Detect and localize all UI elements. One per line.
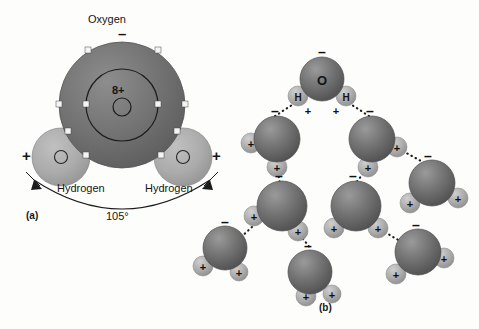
hydrogen-positive-sign: + <box>394 142 400 154</box>
panel-b-diagram: OHH–++–++–++–++–++–++–++–++–++ <box>0 0 479 329</box>
oxygen-negative-sign: – <box>318 44 326 60</box>
molecule-bottom-right: –++ <box>386 217 454 284</box>
molecule-upper-right: –++ <box>349 103 407 177</box>
oxygen-negative-sign: – <box>366 103 374 119</box>
hydrogen-positive-sign: + <box>251 211 257 223</box>
oxygen-negative-sign: – <box>412 217 420 233</box>
oxygen-negative-sign: – <box>304 238 312 254</box>
oxygen-sphere <box>254 116 300 162</box>
hydrogen-letter: H <box>294 92 301 103</box>
oxygen-negative-sign: – <box>424 148 432 164</box>
oxygen-sphere <box>203 226 247 270</box>
oxygen-sphere <box>409 160 455 206</box>
hydrogen-positive-sign: + <box>455 193 461 205</box>
hydrogen-positive-sign: + <box>333 105 339 117</box>
hydrogen-positive-sign: + <box>200 261 206 273</box>
oxygen-sphere <box>395 229 441 275</box>
oxygen-negative-sign: – <box>271 103 279 119</box>
hydrogen-positive-sign: + <box>407 198 413 210</box>
panel-b-tag: (b) <box>319 302 332 313</box>
oxygen-negative-sign: – <box>349 168 357 184</box>
molecule-mid-center: –++ <box>324 168 388 238</box>
oxygen-sphere <box>257 181 307 231</box>
molecule-mid-left: –++ <box>244 168 308 241</box>
molecule-far-right: –++ <box>400 148 468 213</box>
hydrogen-positive-sign: + <box>236 267 242 279</box>
hydrogen-positive-sign: + <box>441 253 447 265</box>
oxygen-negative-sign: – <box>221 214 229 230</box>
molecule-bottom-center: –++ <box>288 238 341 306</box>
oxygen-letter: O <box>317 73 327 88</box>
hydrogen-positive-sign: + <box>295 226 301 238</box>
oxygen-sphere <box>288 250 332 294</box>
hydrogen-letter: H <box>342 92 349 103</box>
hydrogen-positive-sign: + <box>331 223 337 235</box>
oxygen-negative-sign: – <box>275 168 283 184</box>
water-molecule-figure: Oxygen – 8+ + + Hydrogen Hydrogen 105° (… <box>0 0 479 329</box>
hydrogen-positive-sign: + <box>393 269 399 281</box>
molecule-top: OHH–++ <box>288 44 356 117</box>
hydrogen-positive-sign: + <box>303 291 309 303</box>
oxygen-sphere <box>331 181 381 231</box>
hydrogen-positive-sign: + <box>375 223 381 235</box>
molecule-upper-left: –++ <box>241 103 300 177</box>
molecule-bottom-left: –++ <box>193 214 248 281</box>
hydrogen-positive-sign: + <box>365 162 371 174</box>
oxygen-sphere <box>349 116 395 162</box>
hydrogen-positive-sign: + <box>329 289 335 301</box>
hydrogen-positive-sign: + <box>305 105 311 117</box>
hydrogen-positive-sign: + <box>248 138 254 150</box>
